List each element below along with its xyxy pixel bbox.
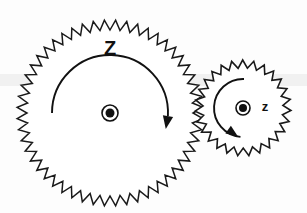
large-gear-label: Z — [104, 37, 116, 59]
large-gear: Z — [17, 20, 203, 206]
large-gear-hub-dot — [106, 109, 115, 118]
gear-diagram-figure: Z z — [0, 0, 307, 213]
small-gear-hub-dot — [239, 104, 247, 112]
gear-diagram-canvas: Z z — [0, 0, 307, 213]
small-gear-label: z — [262, 99, 269, 114]
small-gear: z — [195, 60, 291, 156]
